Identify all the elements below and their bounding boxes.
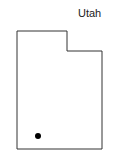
state-map (0, 0, 115, 161)
utah-outline (17, 31, 102, 149)
location-marker (35, 133, 41, 139)
